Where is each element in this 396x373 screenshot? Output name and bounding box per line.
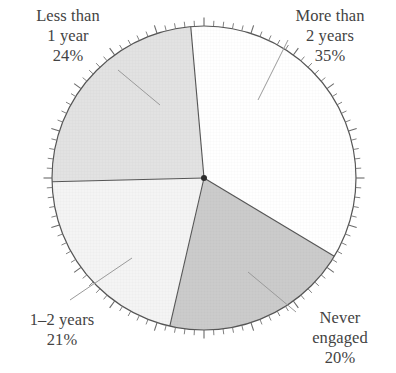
pie-tick	[223, 22, 224, 27]
pie-tick	[184, 329, 185, 334]
pie-tick	[74, 84, 81, 89]
pie-label-more-than-2-years: More than 2 years 35%	[274, 6, 386, 66]
pie-tick	[242, 325, 243, 330]
pie-tick	[128, 40, 131, 45]
pie-tick	[96, 289, 100, 293]
pie-tick	[154, 25, 157, 33]
pie-label-more-than-2-years-percent: 35%	[274, 46, 386, 66]
pie-tick	[351, 216, 356, 217]
pie-tick	[277, 311, 280, 316]
pie-tick	[327, 84, 334, 89]
pie-chart: Less than 1 year 24% More than 2 years 3…	[0, 0, 396, 373]
pie-tick	[269, 316, 271, 321]
pie-tick	[61, 243, 66, 245]
pie-tick	[165, 325, 166, 330]
pie-tick	[355, 158, 360, 159]
pie-tick	[128, 311, 131, 316]
pie-tick	[137, 35, 139, 40]
pie-tick	[61, 111, 66, 113]
pie-label-never-engaged-percent: 20%	[288, 348, 392, 368]
pie-tick	[137, 316, 139, 321]
pie-tick	[351, 139, 356, 140]
pie-tick	[174, 327, 175, 332]
pie-tick	[327, 267, 334, 272]
pie-tick	[58, 120, 63, 122]
pie-label-never-engaged-line1: Never	[288, 308, 392, 328]
pie-tick	[232, 327, 233, 332]
pie-tick	[120, 306, 123, 311]
pie-tick	[260, 319, 262, 324]
pie-tick	[58, 234, 63, 236]
pie-tick	[332, 94, 337, 97]
pie-label-1-2-years-line1: 1–2 years	[8, 310, 116, 330]
pie-tick	[184, 22, 185, 27]
pie-tick	[342, 111, 347, 113]
pie-tick	[71, 259, 76, 262]
pie-tick	[146, 32, 148, 37]
pie-tick	[355, 197, 360, 198]
pie-tick	[301, 295, 305, 299]
pie-tick	[332, 259, 337, 262]
pie-tick	[251, 25, 254, 33]
pie-tick	[146, 319, 148, 324]
pie-tick	[174, 23, 175, 28]
pie-label-1-2-years-percent: 21%	[8, 330, 116, 350]
pie-tick	[232, 23, 233, 28]
pie-tick	[66, 102, 71, 105]
pie-tick	[349, 128, 357, 131]
pie-tick	[353, 148, 358, 149]
pie-label-1-2-years: 1–2 years 21%	[8, 310, 116, 350]
pie-tick	[260, 32, 262, 37]
pie-tick	[315, 282, 319, 286]
pie-label-less-than-1-year-line2: 1 year	[14, 26, 122, 46]
pie-tick	[51, 216, 56, 217]
pie-tick	[74, 267, 81, 272]
pie-tick	[321, 78, 325, 82]
pie-tick	[71, 94, 76, 97]
pie-tick	[83, 275, 87, 279]
pie-center-dot	[201, 175, 207, 181]
pie-tick	[293, 301, 298, 308]
pie-tick	[337, 251, 342, 254]
pie-tick	[345, 120, 350, 122]
pie-label-more-than-2-years-line1: More than	[274, 6, 386, 26]
pie-label-never-engaged-line2: engaged	[288, 328, 392, 348]
pie-tick	[48, 197, 53, 198]
pie-label-never-engaged: Never engaged 20%	[288, 308, 392, 368]
pie-tick	[223, 329, 224, 334]
pie-tick	[104, 295, 108, 299]
pie-tick	[345, 234, 350, 236]
pie-tick	[342, 243, 347, 245]
pie-tick	[48, 158, 53, 159]
pie-tick	[49, 206, 54, 207]
pie-tick	[353, 206, 358, 207]
pie-tick	[83, 78, 87, 82]
pie-tick	[308, 289, 312, 293]
pie-tick	[110, 301, 115, 308]
pie-tick	[66, 251, 71, 254]
pie-tick	[51, 139, 56, 140]
pie-tick	[269, 35, 271, 40]
pie-tick	[51, 128, 59, 131]
pie-tick	[321, 275, 325, 279]
pie-tick	[89, 70, 93, 74]
pie-label-more-than-2-years-line2: 2 years	[274, 26, 386, 46]
pie-label-less-than-1-year: Less than 1 year 24%	[14, 6, 122, 66]
pie-label-less-than-1-year-percent: 24%	[14, 46, 122, 66]
pie-tick	[165, 25, 166, 30]
pie-tick	[337, 102, 342, 105]
pie-tick	[154, 323, 157, 331]
pie-tick	[51, 225, 59, 228]
pie-tick	[315, 70, 319, 74]
pie-label-less-than-1-year-line1: Less than	[14, 6, 122, 26]
pie-tick	[49, 148, 54, 149]
pie-tick	[251, 323, 254, 331]
pie-tick	[349, 225, 357, 228]
pie-tick	[242, 25, 243, 30]
